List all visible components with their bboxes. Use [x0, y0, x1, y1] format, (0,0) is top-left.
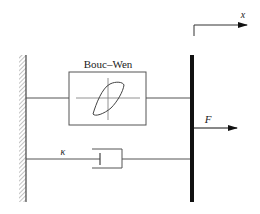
displacement-arrow-icon	[194, 25, 247, 36]
force-arrow: F	[194, 113, 237, 128]
damping-label: κ	[61, 146, 66, 157]
displacement-arrow: x	[194, 9, 247, 36]
moving-bar	[190, 55, 194, 202]
bouc-wen-diagram: Bouc–Wen κ F x	[0, 0, 260, 214]
displacement-label: x	[240, 9, 246, 20]
dashpot-branch: κ	[26, 146, 190, 168]
wall-hatching	[19, 55, 26, 202]
fixed-wall	[19, 55, 26, 202]
bouc-wen-label: Bouc–Wen	[84, 58, 133, 70]
bouc-wen-branch: Bouc–Wen	[26, 58, 190, 125]
force-label: F	[204, 113, 212, 125]
bouc-wen-box	[69, 72, 146, 125]
hysteresis-loop-icon	[93, 82, 124, 115]
